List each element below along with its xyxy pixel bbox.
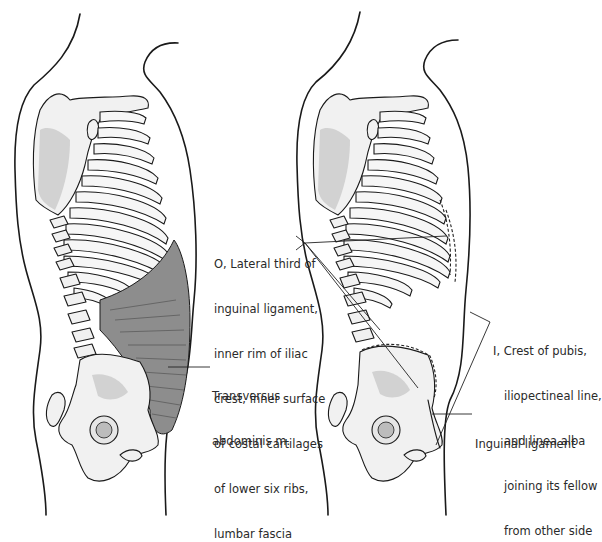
inguinal-ligament-label: Inguinal ligament <box>475 407 575 482</box>
left-pelvis <box>46 354 158 481</box>
origin-line-7: lumbar fascia <box>214 527 325 542</box>
insertion-line-2: iliopectineal line, <box>493 389 602 404</box>
left-trunk <box>15 14 210 515</box>
transversus-line-1: Transversus <box>212 389 290 404</box>
right-pelvis <box>328 344 442 481</box>
transversus-label: Transversus abdominis m. <box>212 359 290 479</box>
insertion-line-5: from other side <box>493 524 602 539</box>
origin-line-1: O, Lateral third of <box>214 257 325 272</box>
left-spine <box>50 216 96 358</box>
insertion-line-1: I, Crest of pubis, <box>493 344 602 359</box>
transversus-line-2: abdominis m. <box>212 434 290 449</box>
origin-line-2: inguinal ligament, <box>214 302 325 317</box>
inguinal-line-1: Inguinal ligament <box>475 437 575 452</box>
origin-line-6: of lower six ribs, <box>214 482 325 497</box>
